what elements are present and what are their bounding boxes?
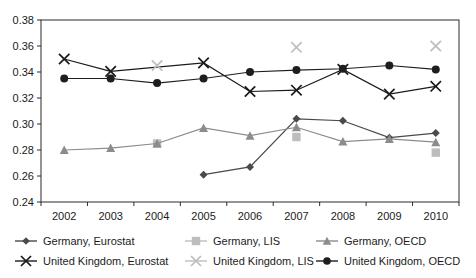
legend-label: United Kingdom, LIS <box>213 255 314 267</box>
y-tick-label: 0.30 <box>13 118 34 130</box>
marker-circle <box>432 65 440 73</box>
x-tick-label-2003: 2003 <box>98 210 122 222</box>
x-tick-label-2010: 2010 <box>424 210 448 222</box>
marker-circle <box>60 75 68 83</box>
marker-circle <box>339 65 347 73</box>
x-axis-ticks: 200220032004200520062007200820092010 <box>41 202 459 222</box>
x-tick-label-2008: 2008 <box>331 210 355 222</box>
chart-legend: Germany, EurostatGermany, LISGermany, OE… <box>15 235 460 267</box>
y-tick-label: 0.32 <box>13 92 34 104</box>
legend-item-united-kingdom-eurostat[interactable]: United Kingdom, Eurostat <box>15 255 168 267</box>
x-tick-label-2009: 2009 <box>377 210 401 222</box>
y-tick-label: 0.38 <box>13 14 34 26</box>
plot-area <box>41 20 459 202</box>
x-tick-label-2005: 2005 <box>191 210 215 222</box>
legend-item-germany-eurostat[interactable]: Germany, Eurostat <box>15 235 135 247</box>
chart-container: 0.380.360.340.320.300.280.260.24 2002200… <box>0 0 476 278</box>
marker-diamond <box>22 237 30 245</box>
marker-circle <box>292 66 300 74</box>
y-tick-label: 0.24 <box>13 196 34 208</box>
x-tick-label-2007: 2007 <box>284 210 308 222</box>
legend-label: Germany, OECD <box>344 235 426 247</box>
legend-item-united-kingdom-lis[interactable]: United Kingdom, LIS <box>185 255 314 267</box>
x-tick-label-2006: 2006 <box>238 210 262 222</box>
legend-label: Germany, Eurostat <box>43 235 135 247</box>
x-tick-label-2004: 2004 <box>145 210 169 222</box>
marker-circle <box>323 257 331 265</box>
y-tick-label: 0.36 <box>13 40 34 52</box>
x-tick-label-2002: 2002 <box>52 210 76 222</box>
legend-label: Germany, LIS <box>213 235 280 247</box>
y-axis-ticks: 0.380.360.340.320.300.280.260.24 <box>13 14 41 208</box>
marker-square <box>192 237 200 245</box>
legend-item-united-kingdom-oecd[interactable]: United Kingdom, OECD <box>316 255 460 267</box>
legend-label: United Kingdom, Eurostat <box>43 255 168 267</box>
legend-item-germany-oecd[interactable]: Germany, OECD <box>316 235 426 247</box>
marker-circle <box>200 75 208 83</box>
legend-item-germany-lis[interactable]: Germany, LIS <box>185 235 280 247</box>
legend-label: United Kingdom, OECD <box>344 255 460 267</box>
marker-circle <box>107 75 115 83</box>
marker-square <box>292 133 300 141</box>
marker-circle <box>153 79 161 87</box>
y-tick-label: 0.26 <box>13 170 34 182</box>
marker-circle <box>385 62 393 70</box>
y-tick-label: 0.34 <box>13 66 34 78</box>
marker-circle <box>246 68 254 76</box>
line-chart: 0.380.360.340.320.300.280.260.24 2002200… <box>0 0 476 278</box>
marker-square <box>432 148 440 156</box>
plot-frame <box>41 20 459 202</box>
y-tick-label: 0.28 <box>13 144 34 156</box>
